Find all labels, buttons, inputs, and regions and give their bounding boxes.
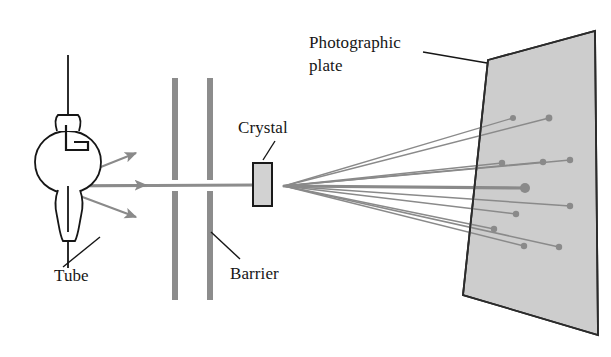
barrier-right-lower: [207, 191, 213, 300]
ray-9-spot: [491, 226, 497, 232]
ray-1-spot: [510, 115, 516, 121]
barrier-left-upper: [172, 78, 178, 180]
crystal: [253, 163, 272, 206]
ray-6-central: [284, 186, 525, 188]
tube-neck-top: [56, 115, 81, 131]
barrier-left-lower: [172, 191, 178, 300]
label-photographic-plate-line2: plate: [309, 56, 343, 75]
tube-bulb: [35, 131, 101, 193]
label-crystal: Crystal: [238, 118, 288, 137]
ray-6-central-spot: [520, 183, 530, 193]
tube-neck-bottom: [56, 190, 83, 241]
label-tube: Tube: [54, 266, 89, 285]
label-barrier: Barrier: [230, 264, 279, 283]
xray-diffraction-diagram: Tube Barrier Crystal Photographic plate: [0, 0, 611, 357]
label-photographic-plate-line1: Photographic: [309, 33, 401, 52]
ray-8-spot: [513, 211, 519, 217]
barrier-right-upper: [207, 78, 213, 180]
ray-7-spot: [567, 203, 573, 209]
ray-2-spot: [546, 115, 553, 122]
ray-5-spot: [567, 157, 573, 163]
diagram-canvas: Tube Barrier Crystal Photographic plate: [0, 0, 611, 357]
ray-11-spot: [556, 244, 562, 250]
ray-10-spot: [521, 243, 527, 249]
